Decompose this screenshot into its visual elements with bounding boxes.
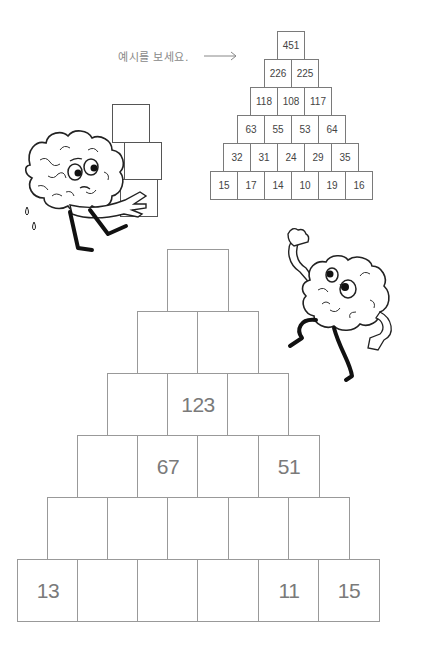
- puzzle-cell: 123: [167, 373, 229, 436]
- puzzle-cell[interactable]: [227, 373, 289, 436]
- puzzle-cell[interactable]: [197, 311, 259, 374]
- puzzle-cell: 67: [137, 435, 199, 498]
- puzzle-cell[interactable]: [107, 497, 169, 560]
- puzzle-cell[interactable]: [137, 311, 199, 374]
- puzzle-cell[interactable]: [167, 249, 229, 312]
- puzzle-cell[interactable]: [77, 559, 139, 622]
- puzzle-cell[interactable]: [137, 559, 199, 622]
- puzzle-cell[interactable]: [47, 497, 109, 560]
- puzzle-cell[interactable]: [107, 373, 169, 436]
- puzzle-cell: 11: [258, 559, 320, 622]
- puzzle-cell: 51: [258, 435, 320, 498]
- puzzle-cell[interactable]: [288, 497, 350, 560]
- puzzle-cell[interactable]: [197, 559, 259, 622]
- puzzle-cell[interactable]: [167, 497, 229, 560]
- puzzle-cell: 15: [318, 559, 380, 622]
- puzzle-cell: 13: [17, 559, 79, 622]
- puzzle-cell[interactable]: [77, 435, 139, 498]
- puzzle-cell[interactable]: [197, 435, 259, 498]
- puzzle-cell[interactable]: [228, 497, 290, 560]
